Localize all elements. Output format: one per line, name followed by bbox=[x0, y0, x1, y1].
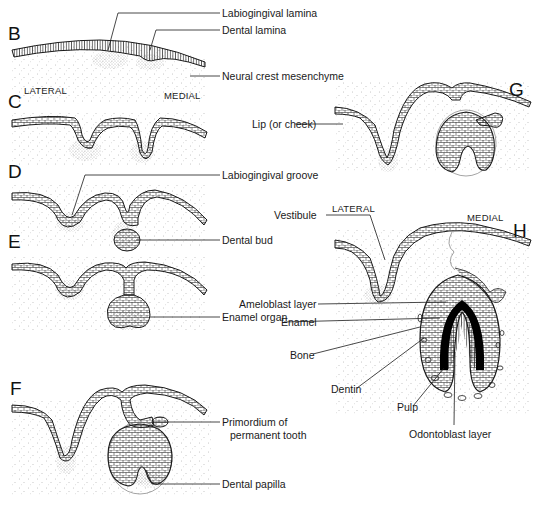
label-labiogingival-lamina: Labiogingival lamina bbox=[222, 7, 317, 19]
panel-letter-g: G bbox=[509, 80, 524, 100]
panel-c-drawing bbox=[12, 112, 207, 167]
panel-letter-h: H bbox=[513, 221, 527, 241]
label-primordium-line1: Primordium of bbox=[222, 416, 287, 428]
panel-letter-d: D bbox=[8, 162, 22, 182]
label-bone: Bone bbox=[290, 349, 315, 361]
panel-g-drawing bbox=[335, 82, 531, 176]
label-dental-bud: Dental bud bbox=[222, 234, 273, 246]
panel-letter-e: E bbox=[8, 232, 21, 252]
label-odontoblast-layer: Odontoblast layer bbox=[409, 428, 491, 440]
panel-f-drawing bbox=[12, 385, 212, 495]
orientation-lateral-h: LATERAL bbox=[332, 203, 375, 214]
orientation-medial-left: MEDIAL bbox=[164, 90, 201, 101]
label-labiogingival-groove: Labiogingival groove bbox=[222, 169, 318, 181]
label-enamel-organ: Enamel organ bbox=[222, 311, 287, 323]
label-dental-lamina: Dental lamina bbox=[222, 24, 286, 36]
panel-letter-f: F bbox=[10, 379, 22, 399]
label-ameloblast-layer: Ameloblast layer bbox=[239, 298, 317, 310]
panel-letter-b: B bbox=[8, 24, 21, 44]
orientation-lateral-left: LATERAL bbox=[24, 85, 67, 96]
label-pulp: Pulp bbox=[397, 401, 418, 413]
label-dentin: Dentin bbox=[331, 383, 361, 395]
label-enamel: Enamel bbox=[281, 316, 317, 328]
panel-h-drawing bbox=[335, 223, 531, 415]
orientation-medial-h: MEDIAL bbox=[467, 212, 504, 223]
label-dental-papilla: Dental papilla bbox=[222, 478, 286, 490]
label-lip-or-cheek: Lip (or cheek) bbox=[252, 118, 294, 130]
label-neural-crest-mesenchyme: Neural crest mesenchyme bbox=[222, 70, 344, 82]
panel-letter-c: C bbox=[8, 92, 22, 112]
label-primordium-line2: permanent tooth bbox=[230, 429, 306, 441]
panel-e-drawing bbox=[12, 255, 207, 330]
panel-d-drawing bbox=[12, 185, 207, 251]
label-vestibule: Vestibule bbox=[274, 209, 317, 221]
